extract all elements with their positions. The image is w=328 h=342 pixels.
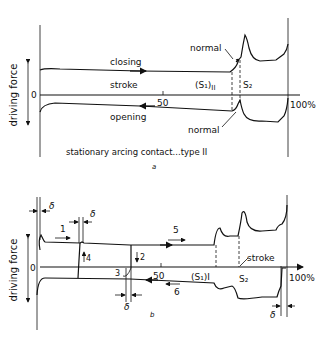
zero-label-b: 0 bbox=[30, 263, 36, 273]
s1-label-b: (S₁)I bbox=[191, 272, 210, 282]
zero-label: 0 bbox=[31, 90, 37, 100]
delta-1: δ bbox=[49, 201, 55, 211]
delta-3: δ bbox=[124, 302, 130, 312]
normal-bottom-label: normal bbox=[188, 125, 220, 135]
upper-curve bbox=[39, 205, 287, 250]
label-3: 3 bbox=[115, 269, 120, 278]
label-1: 1 bbox=[60, 224, 66, 234]
s1-label: (S₁)II bbox=[195, 80, 215, 92]
delta-4: δ bbox=[270, 310, 276, 320]
closing-label: closing bbox=[110, 57, 142, 67]
letter-b: b bbox=[150, 311, 155, 319]
stroke-label: stroke bbox=[110, 80, 138, 90]
tick-100: 100% bbox=[290, 100, 316, 110]
label-6: 6 bbox=[174, 287, 180, 297]
label-4: 4 bbox=[86, 254, 91, 263]
diagram-svg: driving force 0 50 100% closing stroke o… bbox=[0, 0, 328, 342]
panel-a: driving force 0 50 100% closing stroke o… bbox=[8, 18, 316, 171]
normal-top-label: normal bbox=[190, 43, 222, 53]
label-2: 2 bbox=[140, 253, 145, 262]
caption-a: stationary arcing contact...type II bbox=[66, 147, 207, 157]
stroke-label-b: stroke bbox=[247, 253, 275, 263]
s2-label: S₂ bbox=[243, 80, 253, 90]
transition-4 bbox=[78, 243, 80, 278]
tick-100-b: 100% bbox=[289, 273, 315, 283]
figure: driving force 0 50 100% closing stroke o… bbox=[0, 0, 328, 342]
delta-2: δ bbox=[90, 209, 96, 219]
panel-b: driving force 0 50 100% 1 5 4 2 3 6 (S₁)… bbox=[8, 195, 315, 330]
y-label-b: driving force bbox=[8, 239, 19, 302]
label-5: 5 bbox=[173, 225, 179, 235]
letter-a: a bbox=[152, 163, 156, 171]
s2-label-b: S₂ bbox=[239, 274, 249, 284]
y-label: driving force bbox=[8, 64, 19, 127]
opening-label: opening bbox=[110, 112, 146, 122]
closing-curve bbox=[40, 35, 288, 72]
